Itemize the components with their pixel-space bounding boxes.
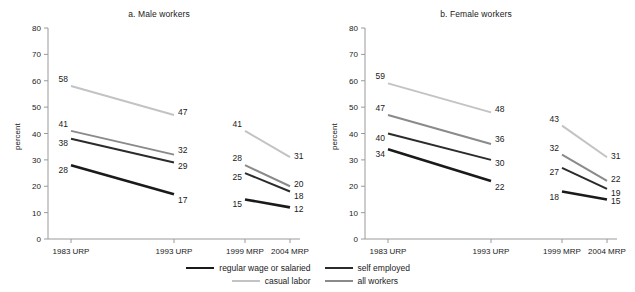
svg-text:22: 22 xyxy=(495,182,505,192)
legend-row: regular wage or salaried self employed xyxy=(0,261,635,275)
legend-item-self-employed: self employed xyxy=(325,263,477,273)
svg-text:18: 18 xyxy=(550,192,560,202)
svg-text:47: 47 xyxy=(376,103,386,113)
chart-legend: regular wage or salaried self employed c… xyxy=(0,258,635,292)
legend-label: regular wage or salaried xyxy=(219,263,310,273)
svg-text:41: 41 xyxy=(59,119,69,129)
panel-male-workers: a. Male workers 010203040506070801983 UR… xyxy=(0,0,318,260)
svg-text:15: 15 xyxy=(611,196,621,206)
male-plot-svg: 010203040506070801983 URP1993 URP1999 MR… xyxy=(0,0,318,260)
svg-text:2004 MRP: 2004 MRP xyxy=(271,247,309,256)
legend-swatch-icon xyxy=(232,280,260,282)
svg-text:22: 22 xyxy=(611,174,621,184)
svg-text:48: 48 xyxy=(495,104,505,114)
svg-text:1993 URP: 1993 URP xyxy=(473,247,510,256)
svg-text:30: 30 xyxy=(495,158,505,168)
svg-text:60: 60 xyxy=(349,77,358,86)
svg-text:20: 20 xyxy=(294,179,304,189)
svg-text:30: 30 xyxy=(349,156,358,165)
svg-text:60: 60 xyxy=(32,77,41,86)
panel-female-workers: b. Female workers 010203040506070801983 … xyxy=(317,0,635,260)
svg-text:31: 31 xyxy=(294,151,304,161)
svg-text:36: 36 xyxy=(495,134,505,144)
legend-item-all-workers: all workers xyxy=(325,276,477,286)
legend-swatch-icon xyxy=(325,280,353,282)
panel-male-plot: 010203040506070801983 URP1993 URP1999 MR… xyxy=(0,0,318,260)
svg-text:29: 29 xyxy=(178,161,188,171)
svg-text:34: 34 xyxy=(376,149,386,159)
svg-text:2004 MRP: 2004 MRP xyxy=(588,247,626,256)
svg-text:15: 15 xyxy=(233,199,243,209)
svg-text:58: 58 xyxy=(59,74,69,84)
svg-text:1983 URP: 1983 URP xyxy=(370,247,407,256)
svg-text:30: 30 xyxy=(32,156,41,165)
legend-swatch-icon xyxy=(186,267,214,269)
svg-text:1983 URP: 1983 URP xyxy=(53,247,90,256)
svg-text:27: 27 xyxy=(550,167,560,177)
svg-text:31: 31 xyxy=(611,151,621,161)
svg-text:40: 40 xyxy=(376,133,386,143)
panel-female-plot: 010203040506070801983 URP1993 URP1999 MR… xyxy=(317,0,635,260)
legend-label: casual labor xyxy=(265,276,311,286)
chart-figure: a. Male workers 010203040506070801983 UR… xyxy=(0,0,635,292)
svg-text:43: 43 xyxy=(550,114,560,124)
female-plot-svg: 010203040506070801983 URP1993 URP1999 MR… xyxy=(317,0,635,260)
y-axis-label-female: percent xyxy=(330,123,339,150)
svg-text:80: 80 xyxy=(32,24,41,33)
svg-text:25: 25 xyxy=(233,172,243,182)
svg-text:70: 70 xyxy=(349,50,358,59)
svg-text:0: 0 xyxy=(37,235,42,244)
svg-text:18: 18 xyxy=(294,191,304,201)
svg-text:41: 41 xyxy=(233,119,243,129)
svg-text:17: 17 xyxy=(178,195,188,205)
svg-text:28: 28 xyxy=(59,165,69,175)
svg-text:38: 38 xyxy=(59,138,69,148)
svg-text:20: 20 xyxy=(349,182,358,191)
svg-text:47: 47 xyxy=(178,107,188,117)
svg-text:0: 0 xyxy=(354,235,359,244)
svg-text:50: 50 xyxy=(349,103,358,112)
legend-swatch-icon xyxy=(325,267,353,269)
legend-label: self employed xyxy=(358,263,410,273)
svg-text:80: 80 xyxy=(349,24,358,33)
y-axis-label-male: percent xyxy=(13,123,22,150)
svg-text:10: 10 xyxy=(32,209,41,218)
svg-text:40: 40 xyxy=(349,130,358,139)
legend-item-regular-wage-or-salaried: regular wage or salaried xyxy=(159,263,311,273)
svg-text:70: 70 xyxy=(32,50,41,59)
svg-text:59: 59 xyxy=(376,71,386,81)
svg-text:20: 20 xyxy=(32,182,41,191)
svg-text:50: 50 xyxy=(32,103,41,112)
svg-text:12: 12 xyxy=(294,204,304,214)
legend-label: all workers xyxy=(358,276,399,286)
svg-text:1993 URP: 1993 URP xyxy=(156,247,193,256)
svg-text:10: 10 xyxy=(349,209,358,218)
svg-text:40: 40 xyxy=(32,130,41,139)
legend-row: casual labor all workers xyxy=(0,274,635,288)
svg-text:32: 32 xyxy=(550,143,560,153)
legend-item-casual-labor: casual labor xyxy=(159,276,311,286)
svg-text:1999 MRP: 1999 MRP xyxy=(226,247,264,256)
svg-text:32: 32 xyxy=(178,145,188,155)
svg-text:28: 28 xyxy=(233,153,243,163)
svg-text:1999 MRP: 1999 MRP xyxy=(543,247,581,256)
